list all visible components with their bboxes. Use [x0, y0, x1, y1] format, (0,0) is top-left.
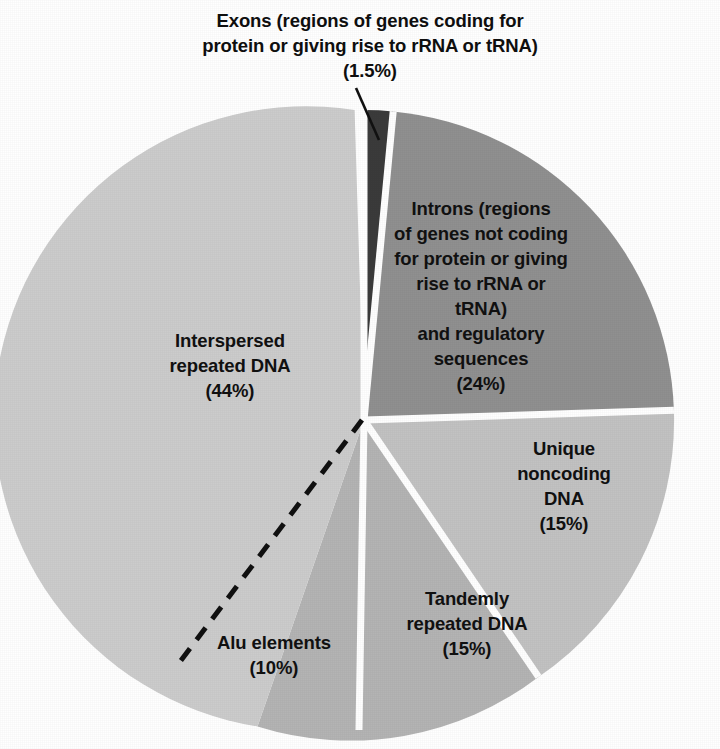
alu-elements-label: Alu elements (10%) [186, 630, 362, 680]
introns-line-6: sequences [434, 348, 529, 369]
unique-noncoding-slice-label: Unique noncoding DNA (15%) [478, 436, 650, 536]
tandemly-line-2: repeated DNA [406, 613, 527, 634]
tandemly-percent: (15%) [443, 638, 492, 659]
separator-tandemly-interspersed [359, 420, 364, 730]
introns-percent: (24%) [457, 373, 506, 394]
tandemly-repeated-slice-label: Tandemly repeated DNA (15%) [372, 586, 562, 661]
interspersed-line-2: repeated DNA [169, 355, 290, 376]
introns-line-5: and regulatory [417, 323, 544, 344]
alu-line-1: Alu elements [217, 632, 331, 653]
introns-slice-label: Introns (regions of genes not coding for… [388, 196, 574, 396]
alu-percent: (10%) [250, 657, 299, 678]
pie-chart-figure: Exons (regions of genes coding for prote… [0, 0, 720, 749]
introns-line-2: of genes not coding [394, 223, 568, 244]
introns-line-3: for protein or giving [394, 248, 568, 269]
unique-line-3: DNA [544, 488, 584, 509]
unique-line-2: noncoding [517, 463, 611, 484]
introns-line-4: rise to rRNA or tRNA) [416, 273, 545, 319]
unique-line-1: Unique [533, 438, 595, 459]
interspersed-line-1: Interspersed [175, 330, 285, 351]
unique-percent: (15%) [540, 513, 589, 534]
interspersed-slice-label: Interspersed repeated DNA (44%) [122, 328, 338, 403]
tandemly-line-1: Tandemly [425, 588, 509, 609]
introns-line-1: Introns (regions [411, 198, 550, 219]
interspersed-percent: (44%) [206, 380, 255, 401]
